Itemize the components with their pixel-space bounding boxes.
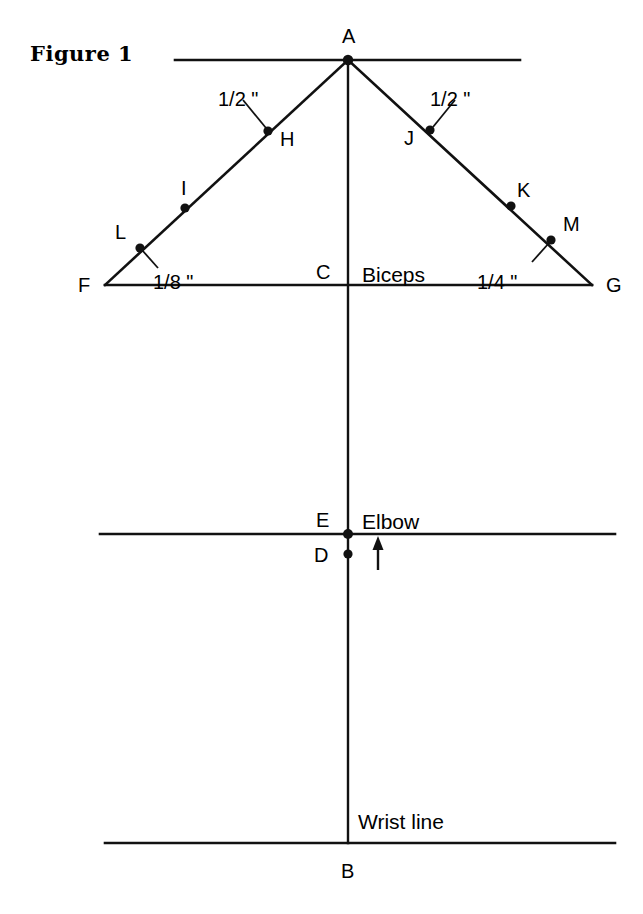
point-label-e: E xyxy=(316,510,329,530)
point-label-m: M xyxy=(563,214,580,234)
construction-lines xyxy=(100,60,615,843)
point-label-l: L xyxy=(115,222,126,242)
point-dots xyxy=(135,55,555,559)
up-arrow-icon xyxy=(373,536,384,570)
dimension-label-left-upper: 1/2 " xyxy=(218,89,258,109)
point-label-c: C xyxy=(316,262,330,282)
dot-m xyxy=(546,235,555,244)
point-label-b: B xyxy=(341,861,354,881)
dot-e xyxy=(343,529,353,539)
point-label-a: A xyxy=(342,26,355,46)
dot-d xyxy=(343,549,352,558)
dot-a xyxy=(343,55,353,65)
dimension-label-right-lower: 1/4 " xyxy=(477,272,517,292)
anatomy-label-wrist: Wrist line xyxy=(358,811,444,832)
point-label-f: F xyxy=(78,275,90,295)
dot-h xyxy=(263,126,272,135)
point-label-g: G xyxy=(606,275,622,295)
anatomy-label-biceps: Biceps xyxy=(362,264,425,285)
leader-lines xyxy=(142,100,549,268)
dot-k xyxy=(506,201,515,210)
figure-container: Figure 1 A H J I K L M F G C E D B 1/2 "… xyxy=(0,0,643,914)
point-label-j: J xyxy=(404,128,414,148)
leader-line-m xyxy=(532,243,549,262)
dot-i xyxy=(180,203,189,212)
point-label-h: H xyxy=(280,129,294,149)
anatomy-label-elbow: Elbow xyxy=(362,511,419,532)
dimension-label-left-lower: 1/8 " xyxy=(153,272,193,292)
dimension-label-right-upper: 1/2 " xyxy=(430,89,470,109)
figure-drawing xyxy=(0,0,643,914)
dot-l xyxy=(135,243,144,252)
leader-line-l xyxy=(142,250,158,268)
dot-j xyxy=(425,125,434,134)
figure-caption: Figure 1 xyxy=(30,41,133,66)
point-label-k: K xyxy=(517,180,530,200)
point-label-i: I xyxy=(181,178,187,198)
point-label-d: D xyxy=(314,545,328,565)
